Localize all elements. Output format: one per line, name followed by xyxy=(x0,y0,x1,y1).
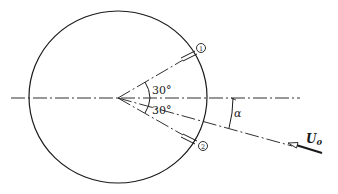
tap-2-tube xyxy=(181,134,197,144)
lower-tap-line xyxy=(118,98,183,135)
alpha-angle-arc xyxy=(229,98,233,128)
upper-30-angle-arc xyxy=(145,82,150,98)
diagram-canvas: 30° 30° α U0 1 2 xyxy=(0,0,338,194)
tap-2-marker: 2 xyxy=(199,142,208,151)
alpha-label: α xyxy=(234,107,242,120)
upper-tap-line xyxy=(118,60,183,98)
flow-velocity-label: U0 xyxy=(306,132,322,147)
tap-1-marker: 1 xyxy=(197,44,206,53)
svg-text:1: 1 xyxy=(199,45,203,53)
flow-direction-line xyxy=(118,98,292,146)
cylinder-circle xyxy=(29,11,207,183)
svg-text:2: 2 xyxy=(201,143,205,151)
upper-angle-label: 30° xyxy=(152,84,172,97)
lower-angle-label: 30° xyxy=(152,104,172,117)
